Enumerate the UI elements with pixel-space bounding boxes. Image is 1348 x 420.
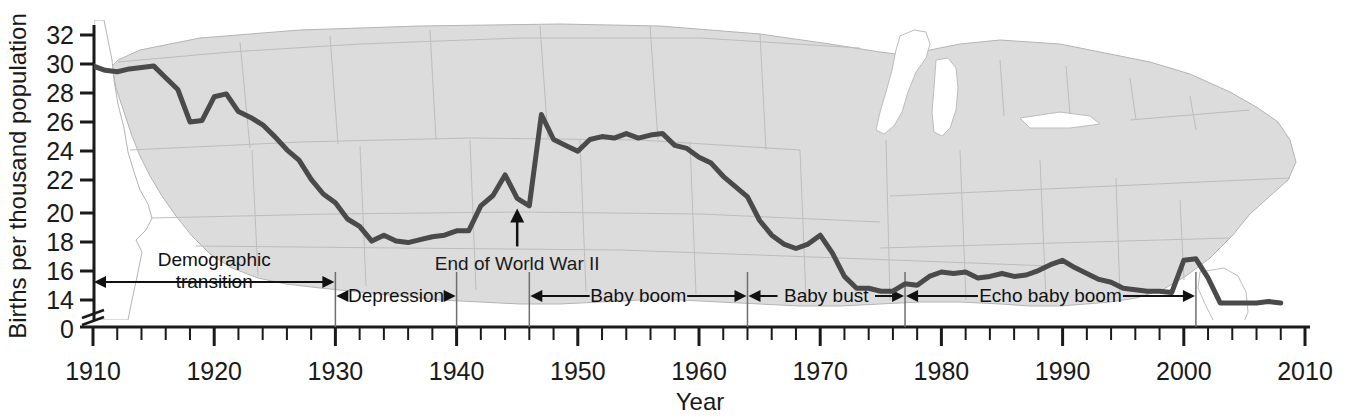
period-label: Echo baby boom: [979, 285, 1122, 306]
x-tick-label: 1940: [429, 357, 485, 385]
y-tick-label: 24: [46, 137, 74, 165]
us-map-background: [94, 20, 1296, 322]
chart-figure: 32 30 28 26 24 22 20 18 16 14 0 Births p…: [0, 0, 1348, 420]
y-axis: 32 30 28 26 24 22 20 18 16 14 0 Births p…: [4, 13, 104, 343]
y-tick-label: 0: [60, 315, 74, 343]
x-tick-label: 1910: [65, 357, 121, 385]
y-tick-label: 32: [46, 21, 74, 49]
birth-rate-line-chart: 32 30 28 26 24 22 20 18 16 14 0 Births p…: [0, 0, 1348, 420]
period-bracket-depression: Depression: [336, 285, 455, 306]
x-tick-label: 2010: [1277, 357, 1333, 385]
y-tick-label: 20: [46, 199, 74, 227]
y-tick-label: 22: [46, 166, 74, 194]
annotation-label: End of World War II: [435, 253, 600, 274]
x-tick-label: 2000: [1156, 357, 1212, 385]
period-label: Demographic: [158, 249, 271, 270]
y-tick-label: 18: [46, 228, 74, 256]
y-tick-label: 30: [46, 50, 74, 78]
x-tick-label: 1970: [792, 357, 848, 385]
x-axis: 1910192019301940195019601970198019902000…: [65, 327, 1333, 415]
x-axis-title: Year: [676, 388, 725, 415]
x-tick-label: 1960: [671, 357, 727, 385]
us-map-silhouette: [112, 24, 1296, 306]
period-label: Depression: [348, 285, 444, 306]
y-axis-ticks: [80, 35, 94, 327]
bracket-arrow-left: [336, 290, 348, 302]
x-tick-label: 1990: [1035, 357, 1091, 385]
x-axis-tick-labels: 1910192019301940195019601970198019902000…: [65, 357, 1333, 385]
bracket-arrow-right: [1183, 290, 1195, 302]
y-tick-label: 26: [46, 108, 74, 136]
x-tick-label: 1980: [914, 357, 970, 385]
y-tick-label: 14: [46, 286, 74, 314]
x-axis-major-ticks: [93, 327, 1305, 346]
y-axis-title: Births per thousand population: [4, 13, 31, 339]
y-tick-label: 28: [46, 79, 74, 107]
period-label: Baby boom: [590, 285, 686, 306]
x-tick-label: 1950: [550, 357, 606, 385]
x-tick-label: 1930: [308, 357, 364, 385]
y-tick-label: 16: [46, 257, 74, 285]
x-tick-label: 1920: [186, 357, 242, 385]
